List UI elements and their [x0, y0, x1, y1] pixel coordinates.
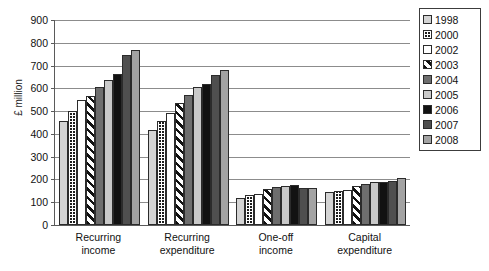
legend-swatch-icon — [423, 45, 432, 54]
x-axis-label-line: expenditure — [320, 244, 409, 257]
legend-item[interactable]: 1998 — [423, 12, 477, 27]
x-axis-label-line: Recurring — [54, 231, 143, 244]
bar[interactable] — [131, 50, 140, 225]
bar[interactable] — [272, 187, 281, 225]
x-axis-label-line: One-off — [232, 231, 321, 244]
y-tick-label: 500 — [10, 105, 48, 117]
bar[interactable] — [254, 194, 263, 225]
bar[interactable] — [77, 100, 86, 225]
legend-item-label: 2002 — [435, 44, 458, 56]
legend-swatch-icon — [423, 135, 432, 144]
bar[interactable] — [175, 103, 184, 225]
bar-chart: £ million 9008007006005004003002001000 R… — [0, 0, 489, 271]
legend-item-label: 2007 — [435, 119, 458, 131]
x-axis-label-line: Capital — [320, 231, 409, 244]
bar[interactable] — [352, 186, 361, 225]
bar-group — [55, 20, 144, 225]
y-tick-label: 100 — [10, 196, 48, 208]
legend-item-label: 2008 — [435, 134, 458, 146]
bar[interactable] — [211, 75, 220, 225]
legend-item[interactable]: 2000 — [423, 27, 477, 42]
x-axis-label: Recurringexpenditure — [143, 231, 232, 256]
bar[interactable] — [325, 192, 334, 225]
bar[interactable] — [334, 191, 343, 225]
legend-swatch-icon — [423, 30, 432, 39]
legend-item-label: 2006 — [435, 104, 458, 116]
y-tick-label: 700 — [10, 60, 48, 72]
bar[interactable] — [122, 55, 131, 225]
bar[interactable] — [184, 95, 193, 225]
y-axis-tick-labels: 9008007006005004003002001000 — [10, 20, 48, 225]
y-tick-label: 800 — [10, 37, 48, 49]
y-tick-label: 300 — [10, 151, 48, 163]
bar[interactable] — [193, 87, 202, 225]
x-axis-category-labels: RecurringincomeRecurringexpenditureOne-o… — [54, 231, 409, 256]
y-tick-label: 0 — [10, 219, 48, 231]
bar[interactable] — [236, 198, 245, 225]
legend-item-label: 1998 — [435, 14, 458, 26]
x-axis-label-line: income — [232, 244, 321, 257]
bar[interactable] — [202, 84, 211, 225]
bar[interactable] — [299, 188, 308, 225]
bar[interactable] — [113, 74, 122, 225]
bar[interactable] — [290, 185, 299, 225]
legend-item-label: 2000 — [435, 29, 458, 41]
legend-swatch-icon — [423, 105, 432, 114]
y-axis-tick — [51, 225, 55, 226]
legend-item[interactable]: 2004 — [423, 72, 477, 87]
legend-swatch-icon — [423, 15, 432, 24]
bars-layer — [55, 20, 410, 225]
legend-item[interactable]: 2007 — [423, 117, 477, 132]
legend-item[interactable]: 2005 — [423, 87, 477, 102]
bar-group — [321, 20, 410, 225]
bar[interactable] — [95, 87, 104, 225]
y-tick-label: 600 — [10, 82, 48, 94]
bar[interactable] — [157, 121, 166, 225]
x-axis-label-line: Recurring — [143, 231, 232, 244]
chart-legend: 199820002002200320042005200620072008 — [419, 8, 481, 151]
bar[interactable] — [281, 186, 290, 225]
bar[interactable] — [86, 96, 95, 225]
bar-group — [144, 20, 233, 225]
bar[interactable] — [104, 80, 113, 225]
x-axis-label-line: income — [54, 244, 143, 257]
y-tick-label: 400 — [10, 128, 48, 140]
bar[interactable] — [59, 121, 68, 225]
legend-item-label: 2004 — [435, 74, 458, 86]
bar[interactable] — [148, 130, 157, 225]
legend-item[interactable]: 2008 — [423, 132, 477, 147]
bar[interactable] — [379, 182, 388, 225]
bar[interactable] — [166, 113, 175, 225]
x-axis-label: One-offincome — [232, 231, 321, 256]
legend-item[interactable]: 2003 — [423, 57, 477, 72]
bar[interactable] — [361, 184, 370, 225]
bar[interactable] — [263, 189, 272, 225]
x-axis-label: Recurringincome — [54, 231, 143, 256]
plot-area — [54, 20, 410, 226]
bar[interactable] — [388, 181, 397, 225]
y-tick-label: 900 — [10, 14, 48, 26]
bar[interactable] — [343, 190, 352, 225]
y-tick-label: 200 — [10, 173, 48, 185]
bar[interactable] — [370, 182, 379, 225]
bar-group — [233, 20, 322, 225]
bar[interactable] — [397, 178, 406, 225]
legend-swatch-icon — [423, 120, 432, 129]
legend-item[interactable]: 2006 — [423, 102, 477, 117]
bar[interactable] — [245, 195, 254, 225]
legend-swatch-icon — [423, 90, 432, 99]
legend-item-label: 2003 — [435, 59, 458, 71]
bar[interactable] — [308, 188, 317, 225]
bar[interactable] — [68, 111, 77, 225]
legend-swatch-icon — [423, 60, 432, 69]
x-axis-label: Capitalexpenditure — [320, 231, 409, 256]
legend-item-label: 2005 — [435, 89, 458, 101]
legend-swatch-icon — [423, 75, 432, 84]
x-axis-label-line: expenditure — [143, 244, 232, 257]
bar[interactable] — [220, 70, 229, 225]
legend-item[interactable]: 2002 — [423, 42, 477, 57]
